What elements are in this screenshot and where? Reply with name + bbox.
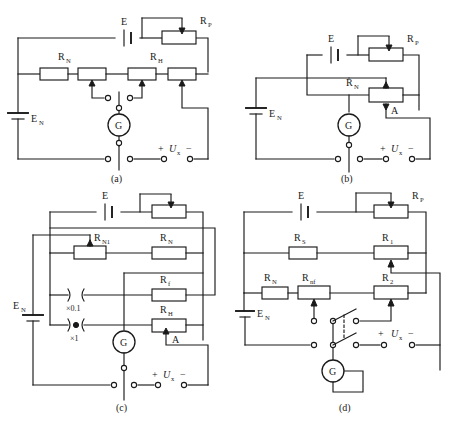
bottom-terminal-1-c[interactable] xyxy=(111,382,116,387)
ux-terminal-minus-b[interactable] xyxy=(409,156,414,161)
tap-terminal-left-a[interactable] xyxy=(105,95,110,100)
label-ux-plus-d: + xyxy=(378,328,384,339)
plug-closed-c[interactable] xyxy=(73,322,78,327)
label-rh-sub-c: H xyxy=(168,310,173,317)
bottom-terminal-2-a[interactable] xyxy=(127,156,132,161)
galvanometer-bottom-terminal-a[interactable] xyxy=(116,140,121,145)
label-en-sub-c: N xyxy=(21,306,26,313)
galvanometer-bottom-terminal-b[interactable] xyxy=(346,142,351,147)
label-en-sub-a: N xyxy=(39,119,44,126)
circuit-panel-b: E R P R N A E N G xyxy=(234,0,468,190)
bottom-terminal-1-d[interactable] xyxy=(311,342,316,347)
rheostat-rh-c xyxy=(152,319,186,332)
label-point-a-c: A xyxy=(172,334,180,345)
resistor-rp-a xyxy=(162,31,196,44)
bottom-terminal-1-b[interactable] xyxy=(335,156,340,161)
label-rp-sub-a: P xyxy=(208,21,212,28)
label-rn-d: R xyxy=(264,272,271,283)
label-r2-sub-d: 2 xyxy=(390,278,393,285)
rheostat-rn1-c xyxy=(74,246,106,259)
label-source-e-a: E xyxy=(121,16,127,27)
label-rnf-d: R xyxy=(302,272,309,283)
label-ux-sub-b: x xyxy=(399,149,403,156)
label-en-sub-d: N xyxy=(265,314,270,321)
ux-terminal-plus-d[interactable] xyxy=(381,342,386,347)
bottom-terminal-2-c[interactable] xyxy=(131,382,136,387)
label-ux-minus-b: − xyxy=(408,143,414,154)
ux-terminal-plus-a[interactable] xyxy=(161,156,166,161)
galvanometer-top-terminal-a[interactable] xyxy=(116,105,121,110)
label-ux-c: U xyxy=(163,369,171,380)
label-rp-d: R xyxy=(412,190,419,201)
label-ux-plus-c: + xyxy=(152,369,158,380)
label-ux-minus-d: − xyxy=(408,328,414,339)
label-rp-a: R xyxy=(200,15,207,26)
label-rh-c: R xyxy=(160,304,167,315)
resistor-rn-c xyxy=(152,247,186,259)
label-source-e-c: E xyxy=(102,190,108,201)
label-rn1-sub-c: N1 xyxy=(102,238,110,245)
label-en-d: E xyxy=(257,308,263,319)
rheostat-r2-d xyxy=(374,286,408,299)
label-ux-sub-d: x xyxy=(399,334,403,341)
label-source-e-b: E xyxy=(328,33,334,44)
label-ux-a: U xyxy=(169,143,177,154)
label-ux-sub-c: x xyxy=(171,375,175,382)
label-en-b: E xyxy=(269,108,275,119)
resistor-rp-c xyxy=(152,205,186,218)
label-galvanometer-c: G xyxy=(120,337,127,348)
label-en-a: E xyxy=(31,113,37,124)
rheostat-rh-left-a xyxy=(128,68,156,80)
label-rh-a: R xyxy=(150,51,157,62)
label-ux-sub-a: x xyxy=(177,149,181,156)
caption-b: (b) xyxy=(341,173,353,185)
bottom-terminal-1-a[interactable] xyxy=(105,156,110,161)
switch-contact-upper-right-d[interactable] xyxy=(353,318,358,323)
label-plug-range-1-c: ×1 xyxy=(70,334,79,343)
label-rp-sub-d: P xyxy=(420,196,424,203)
label-ux-plus-b: + xyxy=(380,143,386,154)
circuit-panel-d: E R P R S R 1 R N R nf R 2 xyxy=(234,185,468,428)
label-rs-sub-d: S xyxy=(302,238,306,245)
label-rs-d: R xyxy=(294,232,301,243)
label-source-e-d: E xyxy=(298,190,304,201)
label-rn-sub-a: N xyxy=(66,57,71,64)
label-r2-d: R xyxy=(382,272,389,283)
label-rn-sub-c: N xyxy=(168,238,173,245)
caption-a: (a) xyxy=(111,173,122,185)
figure-sheet: E R P E N R N R H xyxy=(0,0,468,428)
caption-c: (c) xyxy=(116,402,127,414)
resistor-rn-d xyxy=(262,287,288,299)
resistor-rn-fixed-a xyxy=(40,68,68,80)
circuit-panel-a: E R P E N R N R H xyxy=(0,0,234,190)
label-rp-b: R xyxy=(407,33,414,44)
ux-terminal-minus-c[interactable] xyxy=(181,382,186,387)
ux-terminal-plus-b[interactable] xyxy=(383,156,388,161)
resistor-rf-c xyxy=(152,289,186,301)
ux-terminal-minus-a[interactable] xyxy=(187,156,192,161)
label-ux-minus-a: − xyxy=(186,143,192,154)
ux-terminal-plus-c[interactable] xyxy=(155,382,160,387)
bottom-terminal-2-b[interactable] xyxy=(357,156,362,161)
resistor-rp-b xyxy=(369,48,403,61)
rheostat-rnf-d xyxy=(298,286,330,299)
label-rn-sub-d: N xyxy=(272,278,277,285)
galvanometer-bottom-terminal-c[interactable] xyxy=(121,365,126,370)
tap-terminal-right-a[interactable] xyxy=(127,95,132,100)
label-ux-b: U xyxy=(391,143,399,154)
label-rnf-sub-d: nf xyxy=(310,278,316,285)
label-rf-sub-c: f xyxy=(168,280,171,287)
label-ux-d: U xyxy=(391,328,399,339)
ux-terminal-minus-d[interactable] xyxy=(409,342,414,347)
switch-contact-upper-left-d[interactable] xyxy=(311,318,316,323)
label-galvanometer-d: G xyxy=(329,366,336,377)
label-en-c: E xyxy=(13,300,19,311)
rheostat-rn-b xyxy=(369,88,403,102)
label-r1-d: R xyxy=(382,232,389,243)
label-rf-c: R xyxy=(160,274,167,285)
rheostat-r1-d xyxy=(374,246,408,259)
label-rh-sub-a: H xyxy=(158,57,163,64)
rheostat-rh-a xyxy=(168,68,196,80)
switch-contact-lower-right-d[interactable] xyxy=(353,342,358,347)
label-plug-range-01-c: ×0.1 xyxy=(66,304,81,313)
